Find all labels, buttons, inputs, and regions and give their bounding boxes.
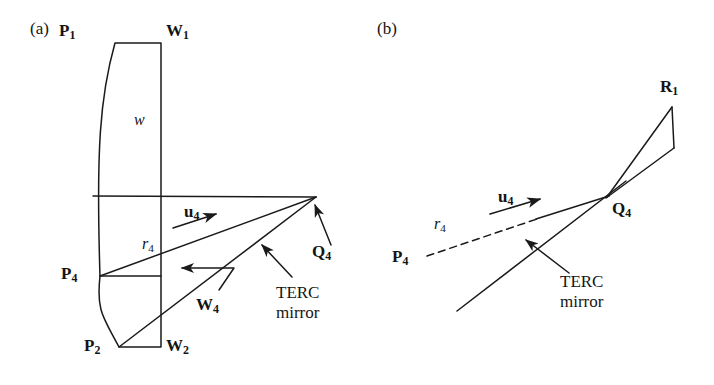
incident-ray-solid [536,196,609,219]
label-ray-r4-b-subscript: 4 [440,222,446,234]
label-vector-u4-b: u4 [498,188,513,208]
label-point-p1-base: P [59,21,69,40]
ray-p4-to-q4 [100,197,316,276]
terc-mirror-annotation-a-line2: mirror [276,303,319,323]
label-ray-r4-a-subscript: 4 [148,242,154,254]
label-vector-u4-a-subscript: 4 [193,209,199,223]
label-point-w1: W1 [166,22,189,42]
label-ray-r4-a: r4 [142,236,154,254]
terc-mirror-annotation-b-line1: TERC [560,272,603,292]
label-point-w4-base: W [196,295,213,314]
terc-mirror-annotation-b: TERC mirror [560,272,603,312]
label-point-p1-subscript: 1 [69,28,75,42]
label-point-p2-subscript: 2 [94,343,100,357]
label-point-w2-base: W [166,336,183,355]
label-width-w: w [134,112,145,130]
label-point-w1-base: W [166,21,183,40]
label-vector-u4-a: u4 [184,203,199,223]
terc-mirror-leader-arrow [262,245,292,277]
label-ray-r4-b: r4 [434,216,446,234]
label-point-q4-b-base: Q [612,199,625,218]
label-point-p4-b-base: P [392,247,402,266]
label-point-p2-base: P [84,336,94,355]
lens-outline [99,43,161,347]
reflected-ray-q4-to-r1 [607,107,672,197]
label-point-p4-a: P4 [61,265,77,285]
terc-mirror-annotation-b-line2: mirror [560,292,603,312]
label-point-p4-a-base: P [61,264,71,283]
terc-mirror-annotation-a-line1: TERC [276,283,319,303]
label-point-r1: R1 [660,78,678,98]
label-point-p4-b-subscript: 4 [402,254,408,268]
label-width-w-base: w [134,111,145,128]
label-point-p2: P2 [84,337,100,357]
label-point-w4-subscript: 4 [213,302,219,316]
label-point-w2-subscript: 2 [183,343,189,357]
label-point-q4-b: Q4 [612,200,631,220]
label-point-p1: P1 [59,22,75,42]
label-point-r1-subscript: 1 [672,84,678,98]
label-point-q4-b-subscript: 4 [625,206,631,220]
label-point-p4-b: P4 [392,248,408,268]
label-point-w4: W4 [196,296,219,316]
optical-axis-line [93,196,316,197]
label-vector-u4-b-subscript: 4 [507,194,513,208]
r1-edge-segment [672,107,674,148]
label-point-q4-a-subscript: 4 [325,249,331,263]
panel-label-b: (b) [377,20,397,37]
r1-return-segment [606,148,674,198]
label-point-q4-a: Q4 [312,243,331,263]
terc-mirror-annotation-a: TERC mirror [276,283,319,323]
q4-leader-arrow [315,205,331,245]
terc-mirror-leader-arrow [526,240,569,273]
label-point-q4-a-base: Q [312,242,325,261]
label-point-w2: W2 [166,337,189,357]
label-point-w1-subscript: 1 [183,28,189,42]
figure-vector-artwork [0,0,714,385]
label-point-p4-a-subscript: 4 [71,271,77,285]
label-point-r1-base: R [660,77,672,96]
panel-label-a: (a) [30,20,49,37]
panel-b-artwork [427,107,674,311]
terc-mirror-figure: (a) P1 W1 w u4 r4 P4 Q4 W4 P2 W2 TERC mi… [0,0,714,385]
